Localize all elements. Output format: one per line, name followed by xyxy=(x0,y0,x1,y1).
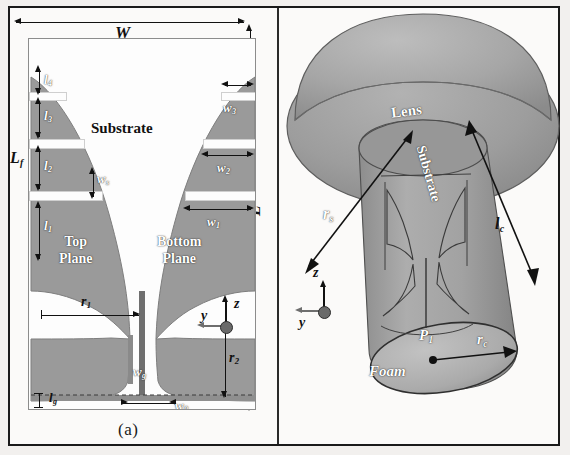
dim-line-l1 xyxy=(39,205,40,259)
dim-arrow-l1-top xyxy=(35,201,41,208)
axis-gizmo-b: z y xyxy=(299,280,353,326)
dim-tick-r1-left xyxy=(41,310,42,319)
dim-arrow-l3-bottom xyxy=(35,132,41,139)
region-label-bottom-plane: Bottom Plane xyxy=(157,235,201,266)
dim-arrow-w3-left xyxy=(221,81,228,87)
region-label-substrate: Substrate xyxy=(91,121,153,136)
dim-label-rs: rs xyxy=(323,206,333,224)
dim-arrow-l1-bottom xyxy=(35,254,41,261)
dim-arrow-w2-right xyxy=(247,151,254,157)
dim-label-w2: w2 xyxy=(217,161,230,176)
dim-arrow-l3-top xyxy=(35,97,41,104)
dim-arrow-w3-right xyxy=(247,81,254,87)
leader-lc-arrow-bottom xyxy=(527,268,539,286)
axis-x-out-of-page-b xyxy=(318,306,331,319)
dim-label-Lf: Lf xyxy=(10,150,23,168)
bottom-plane-line1: Bottom xyxy=(157,235,201,249)
dim-label-l3: l3 xyxy=(44,109,52,124)
panel-a: W Hf L xyxy=(10,8,276,444)
axis-z-arrow-a xyxy=(222,295,228,302)
slot-right-1 xyxy=(185,191,256,201)
dim-label-r2: r2 xyxy=(229,351,239,366)
dim-arrow-l4-bottom xyxy=(35,88,41,95)
dim-arrow-l4-top xyxy=(35,65,41,72)
dim-arrow-ws-bottom xyxy=(89,192,95,199)
dim-label-w0: w0 xyxy=(175,399,188,410)
dim-label-w3: w3 xyxy=(223,101,236,116)
axis-x-out-of-page-a xyxy=(220,321,233,334)
dim-line-w0 xyxy=(121,403,175,404)
panel-a-caption: (a) xyxy=(118,420,138,440)
dim-arrow-w1-right xyxy=(247,205,254,211)
axis-label-z-a: z xyxy=(234,297,239,311)
dim-arrow-w0-left xyxy=(121,399,128,405)
dim-arrow-l2-bottom xyxy=(35,184,41,191)
antenna-board: Substrate Top Plane Bottom Plane l4 xyxy=(28,38,256,410)
dim-label-l1: l1 xyxy=(44,219,52,234)
dim-tick-lg-bottom xyxy=(34,407,43,408)
dim-arrow-w1-left xyxy=(183,205,190,211)
dim-arrow-ws-top xyxy=(89,167,95,174)
dim-label-w1: w1 xyxy=(207,215,220,230)
dim-arrow-r1-right xyxy=(133,311,140,317)
dim-label-l2: l2 xyxy=(44,159,52,174)
dim-arrow-W-right xyxy=(238,18,245,24)
dim-arrow-w2-left xyxy=(201,151,208,157)
dim-label-wg: wg xyxy=(133,365,146,380)
panel-divider xyxy=(277,8,279,444)
dim-line-r1 xyxy=(41,315,139,316)
dim-arrow-W-left xyxy=(14,18,21,24)
axis-label-y-b: y xyxy=(299,316,305,330)
dim-arrow-l2-top xyxy=(35,145,41,152)
top-plane-lower-flare xyxy=(31,338,130,401)
panel-b: Lens Substrate rs lc P1 rc Foam xyxy=(281,8,562,444)
bottom-plane-lower-flare xyxy=(156,338,255,401)
dim-arrow-L-top xyxy=(246,24,252,31)
top-plane-line2: Plane xyxy=(59,252,92,266)
axis-z-arrow-b xyxy=(320,280,326,287)
dim-label-ws: ws xyxy=(97,172,109,187)
dim-label-lg: lg xyxy=(49,391,57,406)
feed-line xyxy=(139,291,145,401)
axis-y-arrow-b xyxy=(295,307,302,313)
bottom-plane-line2: Plane xyxy=(157,252,201,266)
figure-root: W Hf L xyxy=(0,0,570,455)
dim-label-r1: r1 xyxy=(81,295,91,310)
dim-line-lg xyxy=(39,393,40,407)
dim-arrow-r2-bottom xyxy=(221,391,227,398)
axis-label-z-b: z xyxy=(313,266,318,280)
axis-gizmo-a: z y xyxy=(201,297,255,339)
region-label-top-plane: Top Plane xyxy=(59,235,92,266)
dim-line-w2 xyxy=(205,155,251,156)
slot-right-2 xyxy=(203,139,256,149)
dim-label-l4: l4 xyxy=(44,73,52,88)
region-label-foam: Foam xyxy=(369,364,406,379)
dim-line-l2 xyxy=(39,149,40,189)
dim-label-lc: lc xyxy=(495,216,504,234)
lens-assembly-svg xyxy=(281,8,562,444)
top-plane-line1: Top xyxy=(59,235,92,249)
dim-label-rc: rc xyxy=(477,332,487,349)
dim-line-w1 xyxy=(187,209,251,210)
dim-label-P1: P1 xyxy=(419,328,433,345)
axis-label-y-a: y xyxy=(201,309,207,323)
dim-tick-lg-top xyxy=(34,393,43,394)
